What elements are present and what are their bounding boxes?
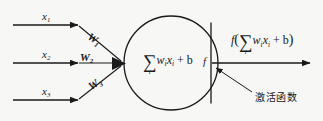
annotation-leader-line bbox=[216, 68, 252, 92]
activation-annotation-label: 激活函数 bbox=[255, 93, 297, 103]
summation-symbol: ∑i bbox=[143, 52, 157, 71]
output-summation-symbol: ∑i bbox=[239, 32, 253, 51]
input-label-1: x1 bbox=[42, 11, 50, 24]
weight-label-2: W2 bbox=[80, 52, 93, 65]
input-label-2: x2 bbox=[42, 49, 50, 62]
activation-symbol: f bbox=[203, 56, 206, 67]
soma-formula: ∑iwixi + b bbox=[143, 52, 193, 71]
input-label-3: x3 bbox=[42, 86, 50, 99]
output-formula: f(∑iwixi + b) bbox=[231, 32, 294, 51]
neuron-diagram: x1 x2 x3 W1 W2 W3 ∑iwixi + b f f(∑iwixi … bbox=[0, 0, 323, 121]
